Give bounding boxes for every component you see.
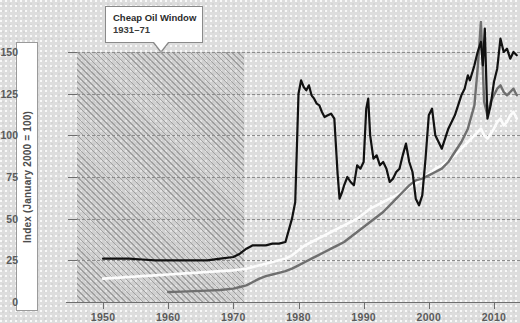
series-lines	[46, 12, 520, 294]
series-line-gray-series	[168, 22, 517, 292]
x-axis-tick	[103, 302, 104, 309]
x-axis-tick-label: 2010	[482, 311, 507, 323]
x-axis-tick-label: 1970	[221, 311, 246, 323]
plot-area: 1950196019701980199020002010	[46, 12, 520, 294]
x-axis-tick-label: 1950	[91, 311, 116, 323]
series-line-white-series	[103, 112, 517, 279]
x-axis-tick-label: 1980	[286, 311, 311, 323]
y-axis-tick-label: 0	[12, 296, 18, 308]
x-axis-line	[66, 302, 520, 303]
y-axis-tick-label: 150	[0, 46, 18, 58]
y-axis-title-box: Index (January 2000 = 100)	[16, 42, 38, 311]
y-axis-tick-label: 75	[6, 171, 18, 183]
y-axis-title: Index (January 2000 = 100)	[22, 110, 33, 242]
x-axis-tick	[364, 302, 365, 309]
x-axis-tick	[168, 302, 169, 309]
cheap-oil-window-callout: Cheap Oil Window 1931–71	[105, 6, 203, 43]
x-axis-tick	[299, 302, 300, 309]
x-axis-tick-label: 1960	[156, 311, 181, 323]
x-axis-tick	[233, 302, 234, 309]
y-axis-tick-labels: 0255075100125150	[0, 0, 18, 282]
x-axis-tick	[429, 302, 430, 309]
x-axis-tick-label: 2000	[417, 311, 442, 323]
series-line-black-series	[103, 29, 517, 261]
y-axis-tick-label: 50	[6, 213, 18, 225]
y-axis-tick-label: 25	[6, 254, 18, 266]
y-axis-tick-label: 125	[0, 88, 18, 100]
x-axis-tick-label: 1990	[351, 311, 376, 323]
callout-tail-icon	[154, 42, 168, 51]
callout-title: Cheap Oil Window	[113, 12, 195, 24]
callout-subtitle: 1931–71	[113, 24, 195, 36]
x-axis-tick	[494, 302, 495, 309]
y-axis-tick-label: 100	[0, 129, 18, 141]
oil-price-index-chart: Index (January 2000 = 100) 0255075100125…	[0, 0, 520, 323]
